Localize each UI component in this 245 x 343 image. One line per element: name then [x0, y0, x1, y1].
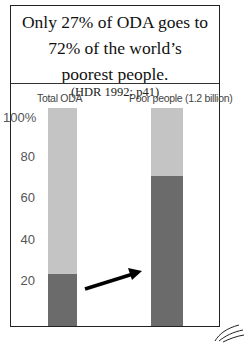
chart-frame: Only 27% of ODA goes to 72% of the world… — [10, 5, 220, 327]
signature-scribble-icon — [213, 322, 245, 343]
arrow-icon — [11, 6, 221, 328]
